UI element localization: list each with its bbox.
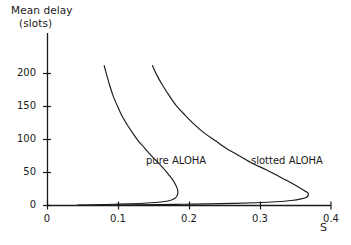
chart-figure: Mean delay(slots) S 0 50 100 150 200 0 0…	[0, 0, 351, 245]
x-tick-label-0.2: 0.2	[172, 213, 206, 224]
y-tick-label-150: 150	[4, 100, 36, 111]
annotation-pure-aloha: pure ALOHA	[146, 155, 206, 166]
y-tick-label-100: 100	[4, 133, 36, 144]
curve-slotted-aloha	[77, 66, 308, 206]
annotation-slotted-aloha: slotted ALOHA	[251, 155, 323, 166]
y-axis-title-line2: (slots)	[11, 17, 73, 30]
data-curves	[77, 66, 308, 206]
x-tick-label-0.4: 0.4	[314, 213, 348, 224]
x-tick-label-0: 0	[30, 213, 64, 224]
y-tick-label-0: 0	[4, 199, 36, 210]
x-tick-label-0.3: 0.3	[243, 213, 277, 224]
y-tick-label-200: 200	[4, 67, 36, 78]
plot-area	[0, 0, 351, 245]
x-tick-label-0.1: 0.1	[101, 213, 135, 224]
y-tick-label-50: 50	[4, 166, 36, 177]
y-axis-title: Mean delay(slots)	[11, 4, 73, 29]
y-axis-title-line1: Mean delay	[11, 4, 73, 16]
